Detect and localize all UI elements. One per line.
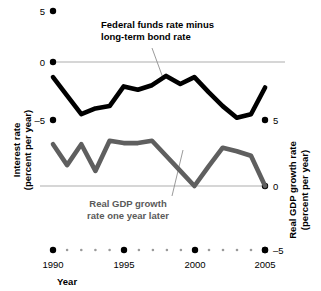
right-tick-dot-5 [262, 117, 268, 123]
series-line-federal-funds-minus-bond [53, 76, 265, 118]
x-major-tick-dot-2000 [192, 247, 198, 253]
annotation-black-series-line1: Federal funds rate minus [101, 19, 214, 30]
x-minor-tick-dot [236, 249, 239, 252]
x-minor-tick-dot [166, 249, 169, 252]
annotation-black-series: Federal funds rate minus long-term bond … [101, 19, 214, 42]
left-tick-label-neg5: –5 [34, 115, 45, 126]
right-tick-label-0: 0 [273, 181, 278, 192]
x-tick-label-2000: 2000 [184, 259, 205, 270]
x-minor-tick-dot [208, 249, 211, 252]
left-tick-dot-5 [50, 8, 56, 14]
x-axis-title: Year [57, 276, 77, 287]
x-minor-tick-dot [152, 249, 155, 252]
annotation-gray-series-line1: Real GDP growth [89, 198, 167, 209]
x-minor-tick-dot [108, 249, 111, 252]
leader-line-black-series [152, 48, 163, 78]
right-axis-title-line1: Real GDP growth rate [287, 141, 298, 239]
x-minor-tick-dot [66, 249, 69, 252]
left-tick-label-0: 0 [40, 57, 45, 68]
x-minor-tick-dot [180, 249, 183, 252]
x-axis-minor-ticks [66, 249, 253, 252]
chart-figure: 5 0 –5 5 0 –5 [0, 0, 321, 291]
x-tick-label-1995: 1995 [113, 259, 134, 270]
x-minor-tick-dot [80, 249, 83, 252]
right-axis-title-line2: (percent per year) [299, 150, 310, 230]
x-major-tick-dot-1995 [121, 247, 127, 253]
x-major-tick-dot-2005 [262, 247, 268, 253]
right-tick-label-neg5: –5 [273, 245, 284, 256]
left-tick-dot-0 [50, 59, 56, 65]
x-tick-label-2005: 2005 [254, 259, 275, 270]
annotation-gray-series: Real GDP growth rate one year later [87, 198, 169, 221]
x-tick-label-1990: 1990 [42, 259, 63, 270]
annotation-black-series-line2: long-term bond rate [101, 31, 191, 42]
left-axis-title-line2: (percent per year) [22, 110, 33, 190]
x-minor-tick-dot [138, 249, 141, 252]
left-axis-ticks [50, 8, 56, 123]
right-axis-title: Real GDP growth rate (percent per year) [287, 141, 310, 239]
right-tick-label-5: 5 [273, 115, 278, 126]
x-minor-tick-dot [94, 249, 97, 252]
series-line-real-gdp-growth [53, 141, 265, 186]
x-minor-tick-dot [222, 249, 225, 252]
annotation-gray-series-line2: rate one year later [87, 210, 169, 221]
x-minor-tick-dot [250, 249, 253, 252]
left-axis-title-line1: Interest rate [11, 123, 22, 177]
left-tick-label-5: 5 [40, 6, 45, 17]
left-axis-title: Interest rate (percent per year) [11, 110, 33, 190]
x-major-tick-dot-1990 [50, 247, 56, 253]
chart-canvas: 5 0 –5 5 0 –5 [0, 0, 321, 291]
left-tick-dot-neg5 [50, 117, 56, 123]
